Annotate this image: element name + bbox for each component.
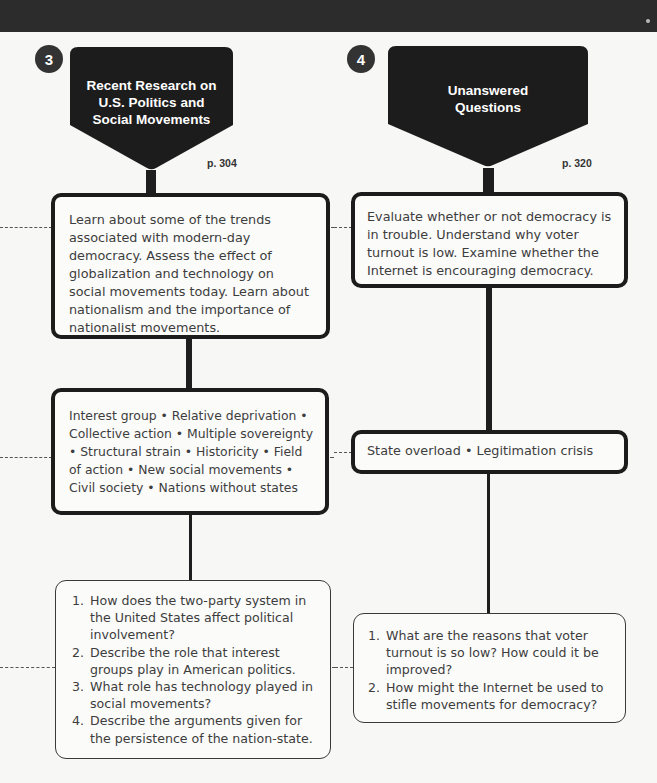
learning-objectives-text: Learn about some of the trends associate… — [69, 211, 314, 337]
top-bar — [0, 0, 657, 32]
dashed-connector — [0, 667, 55, 668]
dashed-connector — [0, 227, 52, 228]
page-reference: p. 320 — [562, 157, 592, 169]
corner-dot — [646, 19, 650, 23]
review-questions-list: How does the two-party system in the Uni… — [66, 592, 322, 747]
page-reference: p. 304 — [207, 157, 237, 169]
dashed-connector — [334, 452, 352, 453]
review-questions-list: What are the reasons that voter turnout … — [362, 627, 617, 713]
connector-line — [486, 288, 492, 431]
connector-line — [487, 474, 490, 614]
connector-line — [483, 168, 494, 195]
key-terms-box: State overload • Legitimation crisis — [351, 430, 628, 474]
section-header-title-4: Unanswered Questions — [388, 82, 588, 116]
question-item: How might the Internet be used to stifle… — [384, 679, 617, 713]
connector-line — [186, 339, 192, 391]
learning-objectives-box: Evaluate whether or not democracy is in … — [351, 192, 628, 288]
question-item: What role has technology played in socia… — [88, 678, 322, 712]
section-header-3: Recent Research on U.S. Politics and Soc… — [70, 47, 233, 170]
dashed-connector — [330, 457, 334, 458]
learning-objectives-text: Evaluate whether or not democracy is in … — [367, 208, 614, 280]
dashed-connector — [0, 457, 52, 458]
key-terms-box: Interest group • Relative deprivation • … — [51, 388, 329, 515]
question-item: How does the two-party system in the Uni… — [88, 592, 322, 644]
step-number-badge-4: 4 — [347, 45, 375, 73]
review-questions-box: What are the reasons that voter turnout … — [353, 613, 626, 723]
dashed-connector — [334, 227, 352, 228]
step-number-badge-3: 3 — [35, 45, 63, 73]
question-item: Describe the role that interest groups p… — [88, 644, 322, 678]
connector-line — [189, 515, 192, 581]
question-item: Describe the arguments given for the per… — [88, 712, 322, 746]
learning-objectives-box: Learn about some of the trends associate… — [51, 193, 330, 339]
dashed-connector — [335, 667, 353, 668]
review-questions-box: How does the two-party system in the Uni… — [55, 580, 331, 759]
section-header-4: Unanswered Questions — [388, 46, 588, 167]
key-terms-text: State overload • Legitimation crisis — [367, 442, 614, 460]
section-header-title-3: Recent Research on U.S. Politics and Soc… — [70, 77, 233, 128]
key-terms-text: Interest group • Relative deprivation • … — [69, 407, 317, 497]
connector-line — [146, 170, 156, 195]
question-item: What are the reasons that voter turnout … — [384, 627, 617, 679]
